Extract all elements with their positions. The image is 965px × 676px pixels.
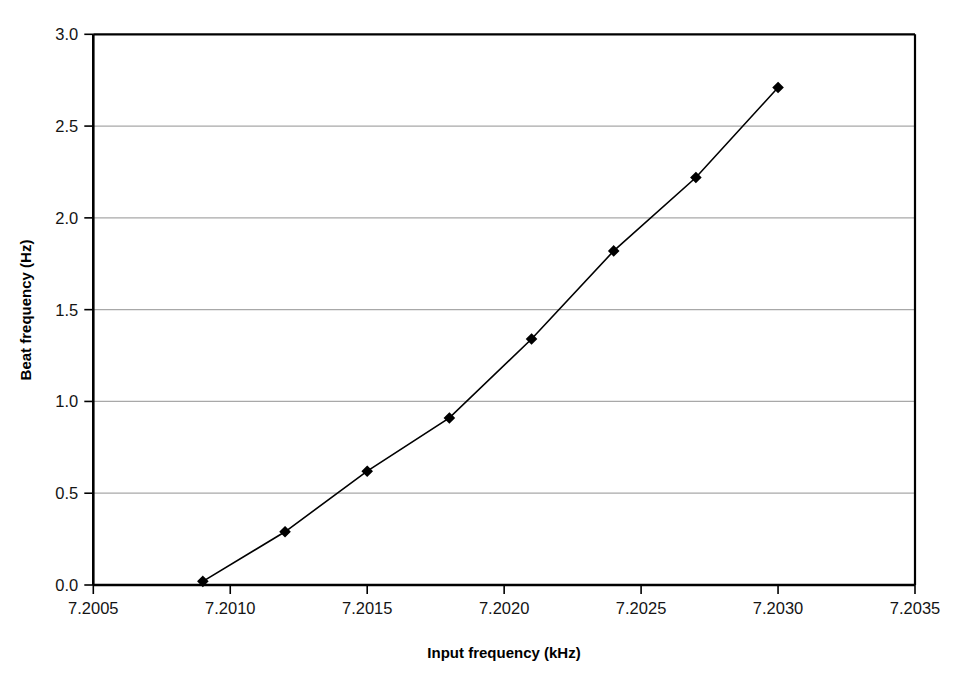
y-axis-title: Beat frequency (Hz) — [17, 240, 34, 381]
x-tick-label: 7.2010 — [205, 599, 255, 617]
chart-svg: 7.20057.20107.20157.20207.20257.20307.20… — [0, 0, 965, 676]
y-tick-label: 3.0 — [55, 25, 78, 43]
x-tick-label: 7.2015 — [342, 599, 392, 617]
x-tick-label: 7.2005 — [68, 599, 118, 617]
x-tick-label: 7.2030 — [753, 599, 803, 617]
chart-figure: 7.20057.20107.20157.20207.20257.20307.20… — [0, 0, 965, 676]
x-tick-label: 7.2020 — [479, 599, 529, 617]
x-axis-title: Input frequency (kHz) — [427, 644, 580, 661]
chart-background — [0, 0, 965, 676]
y-tick-label: 2.5 — [55, 117, 78, 135]
y-tick-label: 2.0 — [55, 209, 78, 227]
y-tick-label: 1.0 — [55, 392, 78, 410]
x-tick-label: 7.2035 — [890, 599, 940, 617]
y-tick-label: 0.0 — [55, 576, 78, 594]
y-tick-label: 1.5 — [55, 301, 78, 319]
x-tick-label: 7.2025 — [616, 599, 666, 617]
y-tick-label: 0.5 — [55, 484, 78, 502]
